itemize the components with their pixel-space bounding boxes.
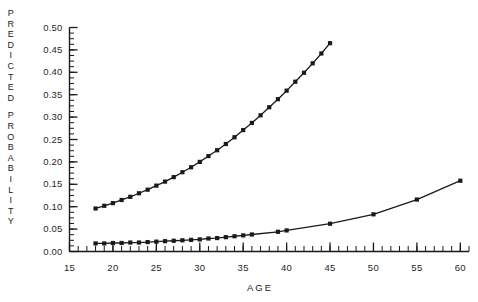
y-axis-title-letter: D bbox=[2, 93, 20, 104]
data-point-marker bbox=[180, 170, 184, 174]
y-axis-title: PREDICTEDPROBABILITY bbox=[2, 8, 20, 227]
y-tick-label: 0.35 bbox=[29, 89, 63, 100]
data-point-marker bbox=[302, 71, 306, 75]
x-tick-label: 20 bbox=[98, 262, 128, 273]
chart-axes bbox=[70, 28, 470, 252]
data-point-marker bbox=[232, 135, 236, 139]
data-point-marker bbox=[172, 239, 176, 243]
data-point-marker bbox=[163, 239, 167, 243]
y-axis-title-letter: R bbox=[2, 121, 20, 132]
y-tick-label: 0.25 bbox=[29, 134, 63, 145]
data-point-marker bbox=[241, 233, 245, 237]
data-point-marker bbox=[154, 184, 158, 188]
data-point-marker bbox=[250, 232, 254, 236]
data-point-marker bbox=[102, 204, 106, 208]
y-tick-label: 0.30 bbox=[29, 111, 63, 122]
y-axis-title-gap bbox=[2, 103, 20, 110]
y-tick-label: 0.40 bbox=[29, 66, 63, 77]
data-point-marker bbox=[258, 113, 262, 117]
data-point-marker bbox=[267, 105, 271, 109]
y-tick-label: 0.45 bbox=[29, 44, 63, 55]
data-point-marker bbox=[146, 188, 150, 192]
data-point-marker bbox=[163, 180, 167, 184]
y-tick-label: 0.10 bbox=[29, 201, 63, 212]
y-tick-label: 0.00 bbox=[29, 246, 63, 257]
y-axis-title-letter: P bbox=[2, 110, 20, 121]
x-axis-title: AGE bbox=[200, 282, 320, 293]
data-point-marker bbox=[458, 179, 462, 183]
y-axis-title-letter: B bbox=[2, 142, 20, 153]
data-point-marker bbox=[111, 241, 115, 245]
y-axis-title-letter: D bbox=[2, 40, 20, 51]
x-tick-label: 30 bbox=[185, 262, 215, 273]
y-axis-title-letter: Y bbox=[2, 216, 20, 227]
data-point-marker bbox=[180, 238, 184, 242]
x-tick-label: 15 bbox=[55, 262, 85, 273]
series-line-lower-curve bbox=[96, 181, 461, 244]
data-point-marker bbox=[215, 236, 219, 240]
x-tick-label: 40 bbox=[272, 262, 302, 273]
y-axis-title-letter: I bbox=[2, 50, 20, 61]
data-point-marker bbox=[276, 230, 280, 234]
y-axis-title-letter: T bbox=[2, 206, 20, 217]
data-point-marker bbox=[224, 142, 228, 146]
data-point-marker bbox=[293, 80, 297, 84]
y-axis-title-letter: I bbox=[2, 195, 20, 206]
data-point-marker bbox=[328, 41, 332, 45]
data-point-marker bbox=[415, 197, 419, 201]
data-point-marker bbox=[111, 201, 115, 205]
y-axis-title-letter: T bbox=[2, 72, 20, 83]
data-point-marker bbox=[241, 128, 245, 132]
chart-series-group bbox=[93, 41, 462, 245]
x-tick-label: 60 bbox=[445, 262, 475, 273]
y-axis-title-letter: P bbox=[2, 8, 20, 19]
data-point-marker bbox=[120, 241, 124, 245]
data-point-marker bbox=[120, 198, 124, 202]
y-axis-title-letter: I bbox=[2, 174, 20, 185]
data-point-marker bbox=[128, 195, 132, 199]
data-point-marker bbox=[128, 240, 132, 244]
series-line-upper-curve bbox=[96, 43, 330, 208]
data-point-marker bbox=[371, 212, 375, 216]
y-axis-title-letter: A bbox=[2, 153, 20, 164]
data-point-marker bbox=[206, 236, 210, 240]
chart-figure: PREDICTEDPROBABILITY 0.000.050.100.150.2… bbox=[0, 0, 478, 302]
y-axis-title-letter: B bbox=[2, 163, 20, 174]
y-tick-label: 0.50 bbox=[29, 22, 63, 33]
data-point-marker bbox=[189, 165, 193, 169]
data-point-marker bbox=[224, 235, 228, 239]
data-point-marker bbox=[328, 222, 332, 226]
x-tick-label: 45 bbox=[315, 262, 345, 273]
data-point-marker bbox=[198, 160, 202, 164]
y-axis-title-letter: L bbox=[2, 185, 20, 196]
x-tick-label: 25 bbox=[141, 262, 171, 273]
data-point-marker bbox=[285, 228, 289, 232]
data-point-marker bbox=[189, 238, 193, 242]
y-axis-title-letter: E bbox=[2, 82, 20, 93]
data-point-marker bbox=[137, 240, 141, 244]
data-point-marker bbox=[102, 241, 106, 245]
y-axis-title-letter: C bbox=[2, 61, 20, 72]
data-point-marker bbox=[93, 206, 97, 210]
data-point-marker bbox=[206, 154, 210, 158]
data-point-marker bbox=[276, 97, 280, 101]
y-axis-title-letter: R bbox=[2, 19, 20, 30]
y-tick-label: 0.05 bbox=[29, 223, 63, 234]
y-tick-label: 0.15 bbox=[29, 178, 63, 189]
x-tick-label: 35 bbox=[228, 262, 258, 273]
data-point-marker bbox=[319, 51, 323, 55]
data-point-marker bbox=[198, 237, 202, 241]
data-point-marker bbox=[154, 240, 158, 244]
data-point-marker bbox=[137, 191, 141, 195]
y-tick-label: 0.20 bbox=[29, 156, 63, 167]
data-point-marker bbox=[232, 234, 236, 238]
data-point-marker bbox=[215, 148, 219, 152]
data-point-marker bbox=[285, 89, 289, 93]
x-tick-label: 50 bbox=[358, 262, 388, 273]
data-point-marker bbox=[172, 175, 176, 179]
y-axis-title-letter: E bbox=[2, 29, 20, 40]
x-tick-label: 55 bbox=[402, 262, 432, 273]
data-point-marker bbox=[250, 121, 254, 125]
chart-plot-area bbox=[0, 0, 478, 302]
data-point-marker bbox=[93, 241, 97, 245]
